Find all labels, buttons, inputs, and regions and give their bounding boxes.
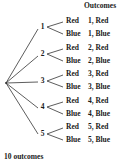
outcome-label: 5, Blue bbox=[88, 135, 110, 144]
outcome-label: 5, Red bbox=[88, 122, 108, 131]
branch-root-4 bbox=[6, 83, 38, 108]
outcome-label: 4, Red bbox=[88, 96, 108, 105]
outcome-label: 2, Red bbox=[88, 43, 108, 52]
outcomes-header: Outcomes bbox=[84, 1, 116, 10]
outcome-label: 3, Blue bbox=[88, 82, 110, 91]
leaf-label: Blue bbox=[66, 29, 81, 38]
outcome-label: 2, Blue bbox=[88, 56, 110, 65]
leaf-label: Red bbox=[66, 43, 79, 52]
leaf-label: Blue bbox=[66, 135, 81, 144]
leaf-label: Red bbox=[66, 69, 79, 78]
stage-label-1: 1 bbox=[40, 22, 45, 31]
stage-label-2: 2 bbox=[40, 49, 45, 58]
leaf-label: Blue bbox=[66, 56, 81, 65]
outcome-label: 1, Blue bbox=[88, 29, 110, 38]
branch-root-1 bbox=[6, 29, 38, 83]
root-node bbox=[5, 82, 7, 84]
branch-root-2 bbox=[6, 56, 38, 83]
leaf-label: Red bbox=[66, 96, 79, 105]
outcome-label: 4, Blue bbox=[88, 109, 110, 118]
stage-label-5: 5 bbox=[40, 129, 45, 138]
branch-root-5 bbox=[6, 83, 38, 134]
stage-label-4: 4 bbox=[40, 102, 45, 111]
outcome-label: 3, Red bbox=[88, 69, 108, 78]
outcome-count: 10 outcomes bbox=[4, 152, 43, 161]
leaf-label: Red bbox=[66, 16, 79, 25]
leaf-label: Blue bbox=[66, 82, 81, 91]
leaf-label: Blue bbox=[66, 109, 81, 118]
outcome-label: 1, Red bbox=[88, 16, 108, 25]
branch-root-3 bbox=[6, 82, 38, 83]
leaf-label: Red bbox=[66, 122, 79, 131]
stage-label-3: 3 bbox=[40, 76, 45, 85]
